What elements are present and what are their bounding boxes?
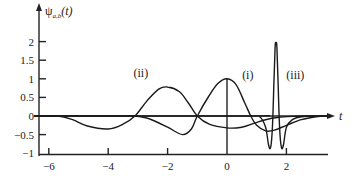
y-tick-label: −1 <box>22 147 34 159</box>
y-axis-arrow-icon <box>36 3 42 11</box>
annotations: (i)(ii)(iii) <box>134 66 305 82</box>
y-tick-label: 1 <box>29 73 35 85</box>
series-iii <box>34 42 328 148</box>
y-tick-label: 2 <box>29 36 35 48</box>
x-tick-label: 2 <box>284 160 290 172</box>
x-ticks: −6−4−202 <box>43 148 289 172</box>
x-tick-label: −4 <box>102 160 114 172</box>
curves <box>34 42 328 148</box>
y-tick-label: 0.5 <box>20 91 34 103</box>
series-i <box>34 79 328 135</box>
curve-label: (i) <box>242 68 253 82</box>
y-tick-label: 1.5 <box>20 54 34 66</box>
y-ticks: 21.510.50−0.5−1 <box>14 36 46 160</box>
x-tick-label: −2 <box>162 160 174 172</box>
y-label-tail: (t) <box>61 4 72 18</box>
x-axis-label: t <box>339 109 343 123</box>
x-tick-label: −6 <box>43 160 55 172</box>
y-tick-label: −0.5 <box>14 129 34 141</box>
curve-label: (ii) <box>134 66 149 80</box>
wavelet-chart: 21.510.50−0.5−1 −6−4−202 (i)(ii)(iii) ψa… <box>0 0 354 178</box>
y-axis-label: ψa,b(t) <box>45 4 73 20</box>
x-tick-label: 0 <box>224 160 230 172</box>
t-axis-arrow-icon <box>327 113 335 119</box>
curve-label: (iii) <box>286 68 304 82</box>
y-tick-label: 0 <box>29 110 35 122</box>
